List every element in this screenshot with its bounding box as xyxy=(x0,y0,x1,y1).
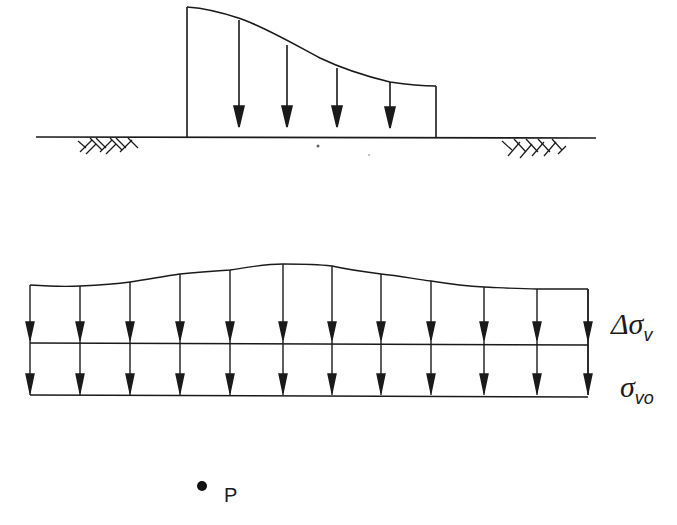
arrowhead-icon xyxy=(76,322,84,340)
arrowhead-icon xyxy=(480,374,488,393)
load-curve xyxy=(187,7,436,86)
speck xyxy=(368,154,370,156)
soil-hatching-right-icon xyxy=(502,139,566,158)
arrowhead-icon xyxy=(385,107,395,128)
arrowhead-icon xyxy=(480,322,488,340)
arrowhead-icon xyxy=(282,106,292,127)
arrowhead-icon xyxy=(176,322,184,340)
point-p-label: P xyxy=(224,484,237,507)
arrowhead-icon xyxy=(427,322,435,340)
base-line xyxy=(30,395,588,397)
arrowhead-icon xyxy=(584,322,592,340)
arrowhead-icon xyxy=(332,106,342,127)
arrowhead-icon xyxy=(234,106,244,127)
arrowhead-icon xyxy=(279,322,287,340)
surface-load xyxy=(36,7,596,138)
stress-profile xyxy=(30,264,588,397)
arrowhead-icon xyxy=(226,374,234,393)
arrowhead-icon xyxy=(26,322,34,340)
soil-hatching-left-icon xyxy=(78,138,138,154)
ground-line xyxy=(36,137,596,138)
arrowhead-icon xyxy=(427,374,435,393)
arrowhead-icon xyxy=(533,374,541,393)
diagram-canvas xyxy=(0,0,677,525)
load-arrows xyxy=(234,20,395,128)
stress-increment-label: Δσv xyxy=(611,307,652,346)
arrowhead-icon xyxy=(377,322,385,340)
arrowhead-icon xyxy=(226,322,234,340)
initial-stress-label: σvo xyxy=(620,370,654,409)
arrowhead-icon xyxy=(328,374,336,393)
arrowhead-icon xyxy=(76,374,84,393)
arrowhead-icon xyxy=(26,374,34,393)
arrowhead-icon xyxy=(584,374,592,393)
arrowhead-icon xyxy=(279,374,287,393)
stress-increment-curve xyxy=(30,264,588,289)
speck xyxy=(317,145,320,148)
arrowhead-icon xyxy=(126,374,134,393)
arrowhead-icon xyxy=(176,374,184,393)
point-p-marker xyxy=(197,481,207,491)
arrowhead-icon xyxy=(377,374,385,393)
arrowhead-icon xyxy=(126,322,134,340)
arrowhead-icon xyxy=(328,322,336,340)
arrowhead-icon xyxy=(533,322,541,340)
initial-stress-line xyxy=(30,343,588,345)
